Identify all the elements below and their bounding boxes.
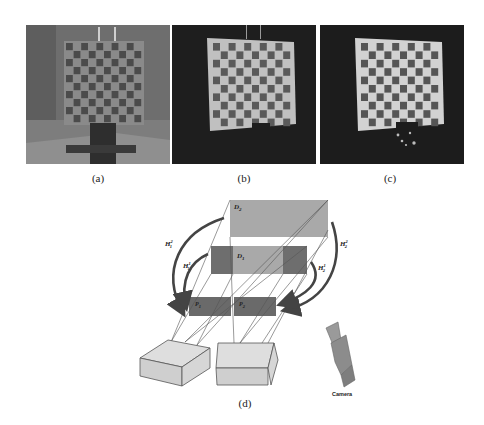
- label-h-left-inner: H11: [182, 261, 190, 271]
- label-h-right-inner: H12: [317, 263, 326, 273]
- photo-b: [172, 25, 316, 164]
- projector-2: [216, 343, 278, 385]
- projector-1: [140, 340, 210, 386]
- checkerboard-photo-c: [320, 25, 464, 164]
- multi-projector-diagram: D2 D1 P1 P2 H21 H11 H22 H12: [0, 180, 484, 425]
- camera-icon: [326, 322, 355, 387]
- label-h-right-outer: H22: [339, 239, 348, 249]
- label-h-left-outer: H21: [164, 239, 173, 249]
- caption-d: (d): [225, 397, 265, 409]
- plane-d2: [230, 200, 328, 237]
- camera-label: Camera: [332, 391, 353, 397]
- checkerboard-photo-a: [26, 25, 170, 164]
- photo-c: [320, 25, 464, 164]
- checkerboard-photo-b: [172, 25, 316, 164]
- photo-a: [26, 25, 170, 164]
